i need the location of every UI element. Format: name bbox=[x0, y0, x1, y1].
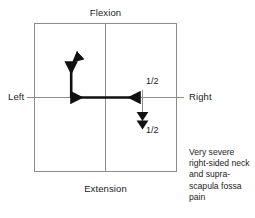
symptom-annotation: Very severe right-sided neck and supra-s… bbox=[189, 147, 255, 203]
lower-fraction-label: 1/2 bbox=[146, 125, 159, 135]
flexion-arrow-secondary-head bbox=[75, 56, 81, 61]
axis-label-extension: Extension bbox=[0, 183, 211, 194]
axis-label-right: Right bbox=[189, 91, 212, 102]
axis-label-left: Left bbox=[8, 91, 24, 102]
motion-quadrant-diagram: Flexion Extension Left Right 1/2 1/2 Ver… bbox=[0, 0, 255, 218]
upper-fraction-label: 1/2 bbox=[146, 76, 159, 86]
axis-label-flexion: Flexion bbox=[0, 7, 211, 18]
